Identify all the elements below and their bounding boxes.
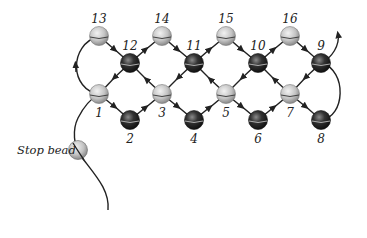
bead-5 (217, 85, 236, 104)
bead-label-8: 8 (317, 132, 325, 146)
bead-label-11: 11 (186, 39, 201, 53)
bead-label-4: 4 (189, 132, 198, 146)
stop-bead-label: Stop bead (17, 143, 76, 157)
bead-14 (153, 27, 172, 46)
bead-label-9: 9 (317, 39, 325, 53)
beading-diagram: Stop bead 12345678910111213141516 (0, 0, 367, 238)
bead-label-15: 15 (218, 12, 233, 26)
bead-label-5: 5 (222, 106, 230, 120)
bead-label-2: 2 (125, 132, 134, 146)
bead-label-3: 3 (158, 106, 166, 120)
bead-8 (312, 111, 331, 130)
bead-label-16: 16 (282, 12, 298, 26)
thread-left-arrow (76, 64, 77, 72)
bead-9 (312, 54, 331, 73)
bead-10 (249, 54, 268, 73)
bead-12 (121, 54, 140, 73)
bead-label-1: 1 (95, 106, 103, 120)
bead-7 (281, 85, 300, 104)
bead-label-14: 14 (154, 12, 169, 26)
bead-16 (281, 27, 300, 46)
bead-label-12: 12 (122, 39, 137, 53)
bead-3 (153, 85, 172, 104)
bead-4 (185, 111, 204, 130)
bead-15 (217, 27, 236, 46)
bead-11 (185, 54, 204, 73)
bead-label-7: 7 (286, 106, 294, 120)
bead-6 (249, 111, 268, 130)
bead-label-13: 13 (91, 12, 107, 26)
bead-1 (90, 85, 109, 104)
bead-2 (121, 111, 140, 130)
bead-label-6: 6 (254, 132, 262, 146)
bead-label-10: 10 (250, 39, 266, 53)
bead-13 (90, 27, 109, 46)
